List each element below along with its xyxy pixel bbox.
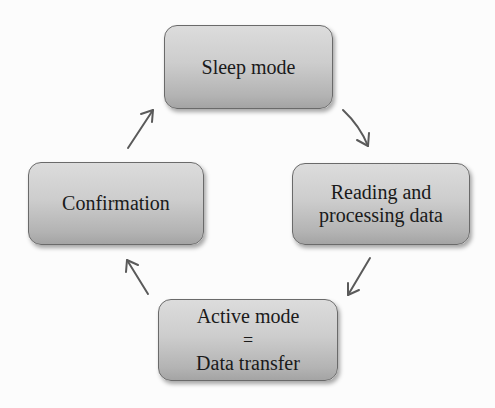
node-active-mode-data-transfer: Active mode = Data transfer xyxy=(158,299,338,381)
node-label-line-2: processing data xyxy=(319,204,443,227)
node-label-line-3: Data transfer xyxy=(196,351,300,376)
arrow-reading-to-active-icon xyxy=(348,258,370,295)
node-sleep-mode: Sleep mode xyxy=(164,25,333,109)
node-label-equals: = xyxy=(243,329,253,352)
arrow-active-to-confirmation-icon xyxy=(126,260,148,294)
node-label: Sleep mode xyxy=(202,56,296,79)
arrow-sleep-to-reading-icon xyxy=(343,110,369,146)
node-confirmation: Confirmation xyxy=(28,162,204,245)
node-label-line-1: Active mode xyxy=(197,304,300,329)
cycle-diagram: Sleep mode Reading and processing data A… xyxy=(0,0,495,408)
node-label-line-1: Reading and xyxy=(331,181,432,204)
arrow-confirmation-to-sleep-icon xyxy=(128,110,153,148)
node-reading-processing-data: Reading and processing data xyxy=(292,163,470,245)
node-label: Confirmation xyxy=(62,192,170,215)
